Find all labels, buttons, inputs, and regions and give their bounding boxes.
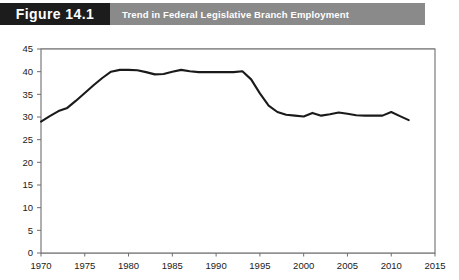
y-tick-label-35: 35 [22, 89, 33, 100]
y-tick-label-30: 30 [22, 111, 33, 122]
figure-number-box: Figure 14.1 [0, 3, 110, 25]
figure-title-label: Trend in Federal Legislative Branch Empl… [122, 9, 349, 20]
y-tick-label-15: 15 [22, 179, 33, 190]
y-tick-label-40: 40 [22, 66, 33, 77]
line-chart: 051015202530354045 197019751980198519901… [0, 28, 459, 280]
x-tick-label-1980: 1980 [118, 260, 139, 271]
x-tick-label-1975: 1975 [74, 260, 95, 271]
x-tick-label-1970: 1970 [30, 260, 51, 271]
x-tick-label-2000: 2000 [293, 260, 314, 271]
figure-number-label: Figure 14.1 [16, 6, 94, 22]
chart-region: 051015202530354045 197019751980198519901… [0, 28, 459, 280]
x-tick-label-2005: 2005 [337, 260, 358, 271]
figure-header-banner: Figure 14.1 Trend in Federal Legislative… [0, 3, 425, 25]
y-tick-label-25: 25 [22, 134, 33, 145]
y-tick-label-20: 20 [22, 157, 33, 168]
y-tick-label-45: 45 [22, 43, 33, 54]
y-tick-label-5: 5 [28, 225, 33, 236]
x-tick-label-1995: 1995 [249, 260, 270, 271]
x-axis-tick-labels: 1970197519801985199019952000200520102015 [30, 253, 445, 271]
y-tick-label-10: 10 [22, 202, 33, 213]
x-tick-label-2015: 2015 [424, 260, 445, 271]
x-tick-label-1990: 1990 [206, 260, 227, 271]
x-tick-label-1985: 1985 [162, 260, 183, 271]
figure-title-box: Trend in Federal Legislative Branch Empl… [110, 3, 425, 25]
y-tick-label-0: 0 [28, 247, 33, 258]
y-axis-tick-labels: 051015202530354045 [22, 43, 41, 258]
x-tick-label-2010: 2010 [381, 260, 402, 271]
